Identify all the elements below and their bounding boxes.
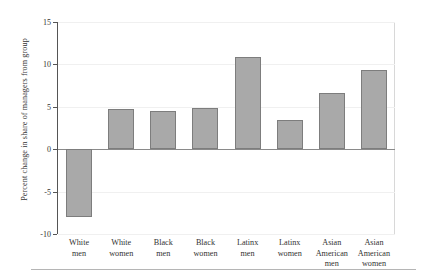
- bar: [66, 149, 92, 217]
- x-axis-tick-labels-group: WhitemenWhitewomenBlackmenBlackwomenLati…: [58, 238, 395, 272]
- bar: [319, 93, 345, 149]
- x-axis-tick-label-line: women: [184, 249, 226, 260]
- plot-area: -10-5051015: [57, 22, 395, 234]
- x-axis-tick-label-line: Latinx: [227, 238, 269, 249]
- x-axis-tick-label-line: women: [353, 259, 395, 270]
- footer-divider: [31, 269, 416, 270]
- y-axis-tick-label: 15: [43, 18, 51, 27]
- y-axis-tick-label: 10: [43, 60, 51, 69]
- x-axis-tick-label: Blackwomen: [184, 238, 226, 259]
- y-axis-tick-mark: [53, 22, 57, 23]
- bar: [150, 111, 176, 149]
- x-axis-tick-label: Whitewomen: [100, 238, 142, 259]
- bar: [361, 70, 387, 149]
- y-axis-tick-label: -5: [44, 187, 51, 196]
- x-axis-tick-label: AsianAmericanmen: [311, 238, 353, 270]
- bar: [277, 120, 303, 150]
- y-axis-tick-label: 0: [47, 145, 51, 154]
- bars-group: [58, 22, 395, 234]
- bar: [108, 109, 134, 149]
- x-axis-tick-label-line: Asian: [311, 238, 353, 249]
- x-axis-tick-label-line: Asian: [353, 238, 395, 249]
- bar-chart-figure: Percent change in share of managers from…: [0, 0, 446, 276]
- y-axis-tick-mark: [53, 107, 57, 108]
- x-axis-tick-label: Latinxmen: [227, 238, 269, 259]
- bar: [192, 108, 218, 150]
- y-axis-tick-mark: [53, 192, 57, 193]
- y-axis-tick-label: 5: [47, 102, 51, 111]
- gridline: [58, 234, 395, 235]
- x-axis-tick-label-line: White: [100, 238, 142, 249]
- x-axis-tick-label-line: Black: [142, 238, 184, 249]
- y-axis-tick-mark: [53, 149, 57, 150]
- x-axis-tick-label-line: men: [311, 259, 353, 270]
- x-axis-tick-label-line: American: [311, 249, 353, 260]
- x-axis-tick-label: Whitemen: [58, 238, 100, 259]
- x-axis-tick-label-line: men: [227, 249, 269, 260]
- bar: [235, 57, 261, 149]
- x-axis-tick-label-line: men: [142, 249, 184, 260]
- x-axis-tick-label-line: women: [269, 249, 311, 260]
- x-axis-tick-label: Blackmen: [142, 238, 184, 259]
- x-axis-tick-label: Latinxwomen: [269, 238, 311, 259]
- y-axis-label-container: Percent change in share of managers from…: [14, 0, 34, 238]
- y-axis-label: Percent change in share of managers from…: [20, 38, 29, 201]
- x-axis-tick-label-line: men: [58, 249, 100, 260]
- x-axis-tick-label-line: Black: [184, 238, 226, 249]
- x-axis-tick-label-line: Latinx: [269, 238, 311, 249]
- x-axis-tick-label-line: American: [353, 249, 395, 260]
- x-axis-tick-label: AsianAmericanwomen: [353, 238, 395, 270]
- x-axis-tick-label-line: women: [100, 249, 142, 260]
- y-axis-tick-mark: [53, 234, 57, 235]
- y-axis-tick-mark: [53, 64, 57, 65]
- y-axis-tick-label: -10: [40, 230, 51, 239]
- x-axis-tick-label-line: White: [58, 238, 100, 249]
